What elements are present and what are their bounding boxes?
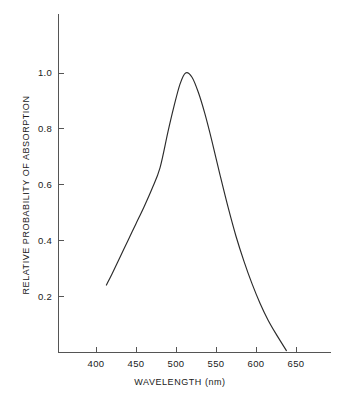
x-axis-title: WAVELENGTH (nm): [134, 377, 225, 387]
x-tick-label-400: 400: [88, 358, 105, 369]
x-tick-label-500: 500: [168, 358, 185, 369]
y-axis-title: RELATIVE PROBABILITY OF ABSORPTION: [21, 96, 31, 295]
x-tick-label-550: 550: [208, 358, 225, 369]
x-tick-label-600: 600: [248, 358, 265, 369]
x-tick-label-650: 650: [288, 358, 305, 369]
absorption-spectrum-chart: 400450500550600650 0.20.40.60.81.0 WAVEL…: [0, 0, 347, 403]
y-tick-label-0.4: 0.4: [38, 235, 52, 246]
chart-background: [0, 0, 347, 403]
y-tick-label-0.8: 0.8: [38, 123, 52, 134]
y-tick-label-0.6: 0.6: [38, 179, 52, 190]
y-tick-label-0.2: 0.2: [38, 291, 52, 302]
y-tick-label-1.0: 1.0: [38, 67, 52, 78]
x-tick-label-450: 450: [128, 358, 145, 369]
